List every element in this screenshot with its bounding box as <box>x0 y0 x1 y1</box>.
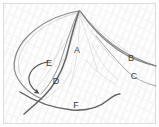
label-a: A <box>74 45 80 55</box>
label-d: D <box>53 76 60 86</box>
label-c: C <box>131 71 138 81</box>
label-e: E <box>46 58 52 68</box>
label-f: F <box>73 100 79 110</box>
figure-container: A B C D E F <box>0 0 159 127</box>
sketch-diagram: A B C D E F <box>0 0 159 127</box>
label-b: B <box>128 53 134 63</box>
